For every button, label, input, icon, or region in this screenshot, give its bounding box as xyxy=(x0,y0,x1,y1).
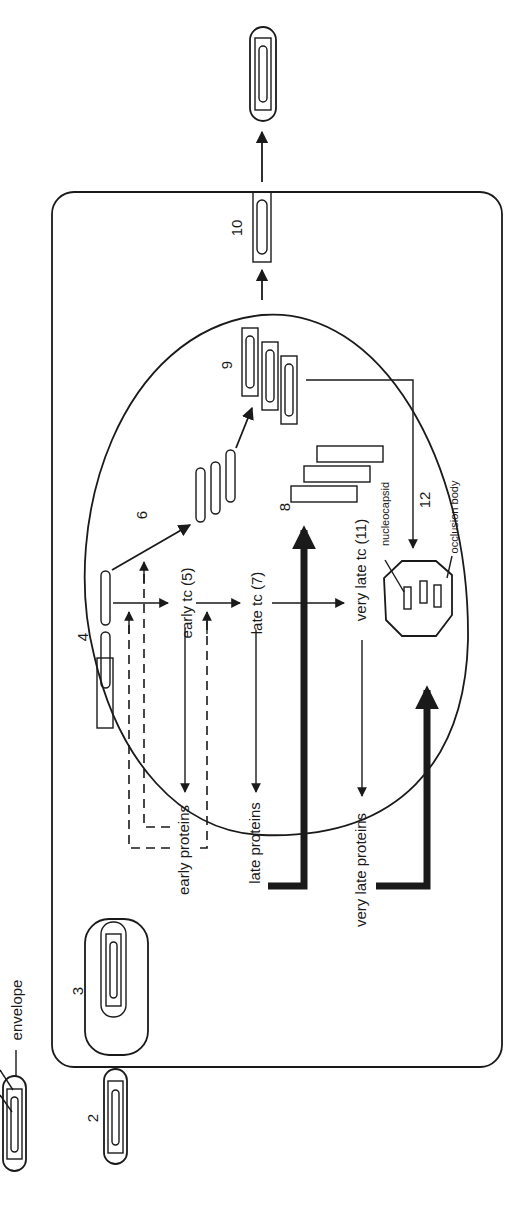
nucleus xyxy=(85,315,468,836)
step-4-label: 4 xyxy=(74,633,91,641)
late-proteins-label: late proteins xyxy=(246,802,263,884)
late-genomes-step-8 xyxy=(291,446,383,502)
step-6-label: 6 xyxy=(133,511,150,519)
replicated-genomes-step-6 xyxy=(196,450,235,522)
step-2-label: 2 xyxy=(84,1114,101,1122)
early-proteins-feedback xyxy=(129,562,207,848)
baculovirus-replication-diagram: 10 9 6 8 4 early tc (5) late tc (7) very xyxy=(0,0,524,1207)
budded-virion-released xyxy=(250,27,276,121)
envelope-label: envelope xyxy=(8,980,25,1041)
step-3-label: 3 xyxy=(69,987,86,995)
step-8-label: 8 xyxy=(276,503,293,511)
very-late-tc-label: very late tc (11) xyxy=(352,519,369,621)
occlusion-body-label: occlusion body xyxy=(448,480,460,553)
virion-attachment-step-2 xyxy=(104,1069,127,1164)
late-proteins-to-assembly-arrow xyxy=(268,530,304,886)
endosome-virion-step-3 xyxy=(85,919,148,1055)
nucleocapsids-step-9 xyxy=(242,328,297,424)
cell-membrane xyxy=(52,192,502,1067)
very-late-proteins-to-occlusion-arrow xyxy=(376,690,427,886)
replication-arrow xyxy=(112,525,190,570)
early-proteins-label: early proteins xyxy=(175,805,192,895)
nucleocapsid-leader xyxy=(385,560,404,592)
nucleocapsid-label: nucleocapsid xyxy=(379,482,391,546)
step-9-label: 9 xyxy=(218,361,235,369)
assembly-arrow xyxy=(236,408,252,448)
very-late-proteins-label: very late proteins xyxy=(352,813,369,927)
nucleocapsid-entry-step-4 xyxy=(97,571,113,728)
early-tc-label: early tc (5) xyxy=(178,568,195,639)
step-10-label: 10 xyxy=(228,220,245,237)
late-tc-label: late tc (7) xyxy=(248,572,265,635)
budding-virion xyxy=(253,192,271,262)
free-virion xyxy=(0,1050,26,1171)
occlusion-body xyxy=(384,561,452,636)
step-12-label: 12 xyxy=(416,492,433,509)
